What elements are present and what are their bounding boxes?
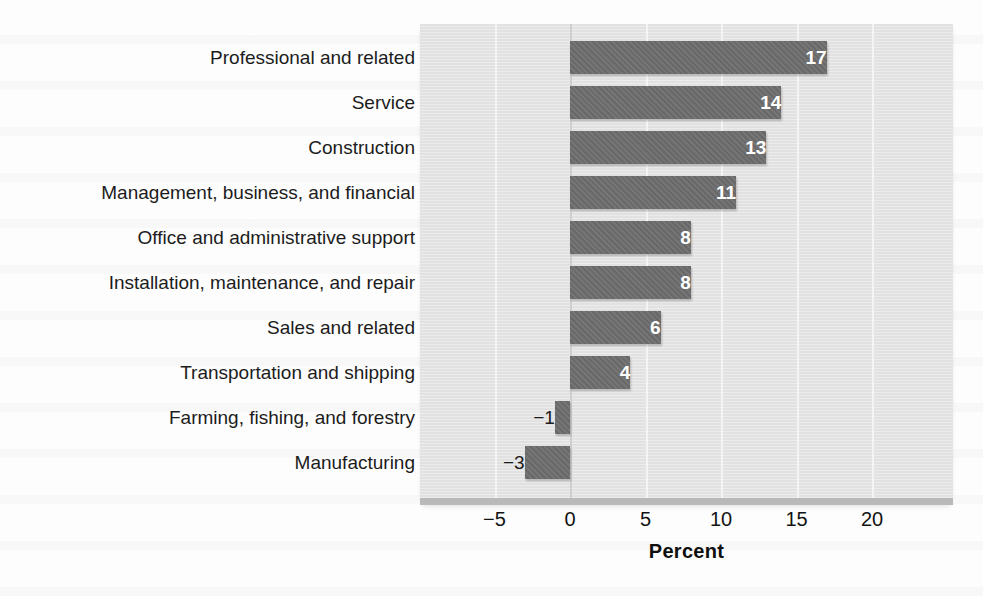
x-tick-label: 5 [616, 508, 676, 531]
bar-value-label: 4 [570, 356, 639, 389]
bar-value-label: 17 [570, 41, 836, 74]
bar-value-label: −3 [435, 446, 533, 479]
bar-value-label: 13 [570, 131, 775, 164]
x-tick-label: 0 [540, 508, 600, 531]
bar-value-label: −1 [465, 401, 563, 434]
bar-row: −3 [0, 440, 983, 485]
bar-value-label: 11 [570, 176, 745, 209]
bar-value-label: 14 [570, 86, 790, 119]
x-tick-label: 15 [767, 508, 827, 531]
x-tick-label: 10 [691, 508, 751, 531]
bar-row: 6 [0, 305, 983, 350]
bar-row: 8 [0, 215, 983, 260]
x-axis-baseline [420, 498, 953, 505]
bar-value-label: 6 [570, 311, 670, 344]
bar-value-label: 8 [570, 221, 700, 254]
bar-row: 8 [0, 260, 983, 305]
bar-row: −1 [0, 395, 983, 440]
chart-page: Professional and relatedServiceConstruct… [0, 0, 983, 596]
bar-value-label: 8 [570, 266, 700, 299]
x-tick-label: 20 [842, 508, 902, 531]
bar-row: 11 [0, 170, 983, 215]
bar-row: 14 [0, 80, 983, 125]
x-axis-title: Percent [420, 540, 953, 563]
bar-row: 13 [0, 125, 983, 170]
bar-chart-figure: Professional and relatedServiceConstruct… [0, 0, 983, 596]
x-tick-label: −5 [465, 508, 525, 531]
bar-row: 4 [0, 350, 983, 395]
bar-row: 17 [0, 35, 983, 80]
